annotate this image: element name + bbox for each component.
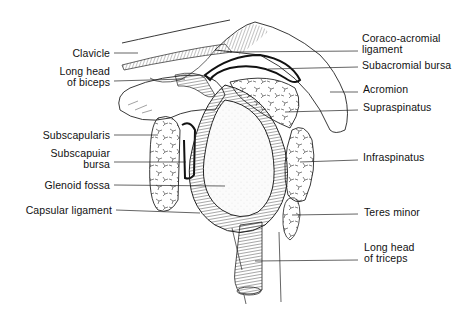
label-clavicle: Clavicle [0,48,110,59]
label-subscapular-bursa: Subscapuiar bursa [0,148,110,170]
label-acromion: Acromion [363,84,408,95]
infraspinatus-shape [285,128,314,202]
label-subscapularis: Subscapularis [0,130,110,141]
shoulder-joint-diagram: Clavicle Long head of biceps Subscapular… [0,0,476,323]
label-infraspinatus: Infraspinatus [363,152,424,163]
label-capsular-ligament: Capsular ligament [0,205,112,216]
label-long-head-biceps: Long head of biceps [0,66,110,88]
triceps-tendon-shape [232,222,281,304]
label-glenoid-fossa: Glenoid fossa [0,180,110,191]
label-coraco-acromial-ligament: Coraco-acromial ligament [362,33,441,55]
label-subacromial-bursa: Subacromial bursa [362,60,451,71]
clavicle-shape [122,20,232,70]
teres-minor-shape [283,198,300,240]
label-long-head-triceps: Long head of triceps [364,242,415,264]
label-teres-minor: Teres minor [364,207,420,218]
label-supraspinatus: Supraspinatus [363,102,431,113]
biceps-tendon-shape [175,73,215,97]
subscapularis-shape [150,117,180,212]
